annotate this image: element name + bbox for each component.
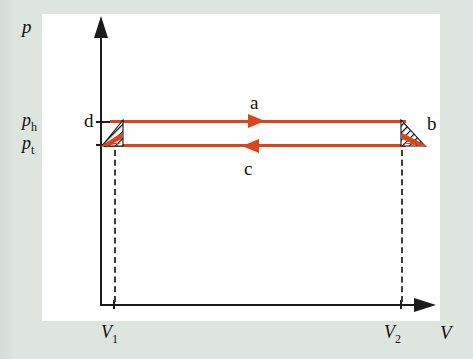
y-axis-arrowhead-icon bbox=[94, 16, 108, 38]
ph-sub: h bbox=[31, 120, 37, 134]
v1-main: V bbox=[101, 322, 112, 342]
v2-main: V bbox=[384, 322, 395, 342]
x-axis-label: V bbox=[440, 322, 452, 344]
process-label-d: d bbox=[84, 110, 94, 132]
pt-sub: t bbox=[31, 143, 34, 157]
y-tick-label-pt: pt bbox=[22, 133, 34, 158]
guide-dash-v2 bbox=[401, 150, 403, 302]
process-label-b: b bbox=[427, 113, 437, 135]
guide-dash-v1 bbox=[114, 150, 116, 302]
pt-main: p bbox=[22, 133, 31, 153]
ph-main: p bbox=[22, 110, 31, 130]
wedge-b-hatched-icon bbox=[392, 113, 432, 155]
x-tick-label-v1: V1 bbox=[101, 322, 118, 347]
process-label-a: a bbox=[250, 92, 258, 114]
pv-diagram-figure: p V ph pt V1 V2 bbox=[0, 0, 473, 359]
process-label-c: c bbox=[244, 158, 252, 180]
process-a-arrowhead-icon bbox=[248, 114, 265, 128]
v1-sub: 1 bbox=[112, 332, 118, 346]
wedge-d-hatched-icon bbox=[98, 113, 130, 155]
y-axis-line bbox=[100, 30, 102, 306]
y-tick-label-ph: ph bbox=[22, 110, 37, 135]
process-c-arrowhead-icon bbox=[242, 139, 259, 153]
x-axis-arrowhead-icon bbox=[414, 298, 436, 312]
v2-sub: 2 bbox=[395, 332, 401, 346]
x-tick-label-v2: V2 bbox=[384, 322, 401, 347]
y-axis-label: p bbox=[22, 16, 32, 38]
x-axis-line bbox=[100, 304, 422, 306]
